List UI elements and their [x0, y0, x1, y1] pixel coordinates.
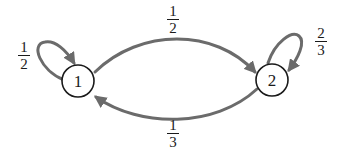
denominator: 3 [314, 43, 328, 57]
numerator: 1 [166, 4, 180, 18]
denominator: 2 [17, 57, 31, 71]
numerator: 2 [314, 26, 328, 40]
prob-label-1-to-2: 1 2 [166, 4, 180, 35]
denominator: 3 [166, 135, 180, 149]
node-2: 2 [256, 64, 288, 96]
node-1-label: 1 [74, 72, 83, 91]
prob-label-1-to-1: 1 2 [17, 40, 31, 71]
edge-1-to-2 [95, 39, 255, 72]
numerator: 1 [17, 40, 31, 54]
prob-label-2-to-2: 2 3 [314, 26, 328, 57]
node-2-label: 2 [268, 71, 277, 90]
numerator: 1 [166, 118, 180, 132]
state-diagram: 1 2 1 2 1 2 1 3 2 3 [0, 0, 340, 167]
edge-2-to-1 [96, 89, 257, 119]
node-1: 1 [62, 65, 94, 97]
prob-label-2-to-1: 1 3 [166, 118, 180, 149]
denominator: 2 [166, 21, 180, 35]
